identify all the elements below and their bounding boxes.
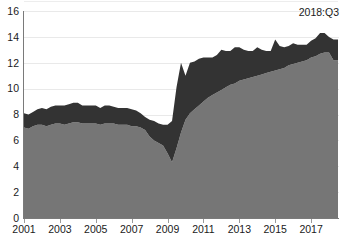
y-axis-tick-label: 16 <box>7 5 19 17</box>
area-chart: 0246810121416 20012003200520072009201120… <box>0 0 352 246</box>
x-axis-tick-label: 2005 <box>84 223 108 235</box>
chart-annotations: 2018:Q3 <box>299 6 339 18</box>
x-axis-tick-label: 2011 <box>192 223 215 235</box>
x-axis-tick-label: 2003 <box>48 223 72 235</box>
y-axis-tick-label: 0 <box>13 212 19 224</box>
y-axis-tick-label: 10 <box>7 82 19 94</box>
y-axis-tick-label: 14 <box>7 31 19 43</box>
x-axis-tick-label: 2013 <box>228 223 252 235</box>
x-axis-tick-labels: 200120032005200720092011201320152017 <box>12 223 323 235</box>
chart-container: 0246810121416 20012003200520072009201120… <box>0 0 352 246</box>
y-axis-tick-label: 4 <box>13 160 19 172</box>
x-axis-tick-label: 2007 <box>120 223 144 235</box>
x-axis-tick-label: 2017 <box>299 223 323 235</box>
x-axis-tick-label: 2015 <box>264 223 288 235</box>
y-axis-tick-label: 2 <box>13 186 19 198</box>
y-axis-tick-label: 8 <box>13 108 19 120</box>
y-axis-tick-label: 6 <box>13 134 19 146</box>
annotation-label: 2018:Q3 <box>299 6 339 18</box>
y-axis-tick-label: 12 <box>7 57 19 69</box>
x-axis-tick-label: 2009 <box>156 223 180 235</box>
x-axis-tick-label: 2001 <box>12 223 36 235</box>
